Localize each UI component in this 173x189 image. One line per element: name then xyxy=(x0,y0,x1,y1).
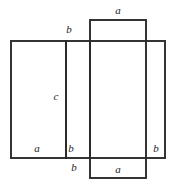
figure-canvas xyxy=(0,0,173,189)
label-b-below-edge: b xyxy=(71,162,77,173)
label-b-lower-middle: b xyxy=(68,143,74,154)
label-a-bottom-left: a xyxy=(34,143,40,154)
label-c-middle: c xyxy=(53,91,58,102)
label-a-top: a xyxy=(115,5,121,16)
label-a-bottom: a xyxy=(115,164,121,175)
label-b-lower-right: b xyxy=(153,143,159,154)
rect-middle-strip xyxy=(66,41,90,158)
figure-root: a b c a b b b a xyxy=(0,0,173,189)
rect-right xyxy=(90,41,165,158)
label-b-upper-left: b xyxy=(66,24,72,35)
rect-top-tall xyxy=(90,20,146,178)
